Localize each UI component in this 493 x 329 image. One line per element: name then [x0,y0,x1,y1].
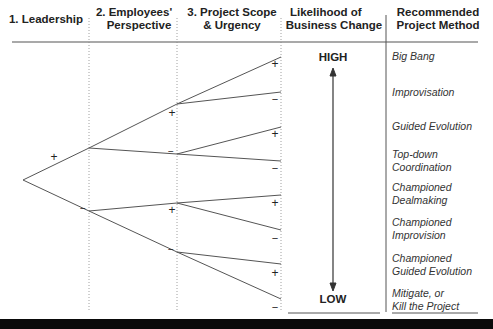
sign-scope-7: + [265,266,285,280]
method-line2: Dealmaking [392,194,452,207]
sign-scope-2: − [265,93,285,105]
sign-employees-minus-1: − [161,146,181,157]
sign-scope-8: − [265,301,285,313]
method-line1: Top-down [392,148,452,161]
method-championed-guided-evolution: Championed Guided Evolution [392,252,472,277]
sign-scope-1: + [265,57,285,71]
sign-employees-minus-2: − [161,244,181,255]
method-line2: Coordination [392,161,452,174]
sign-scope-4: − [265,162,285,174]
method-line2: Kill the Project [392,300,459,313]
method-top-down-coordination: Top-down Coordination [392,148,452,173]
sign-leadership-minus: − [73,203,93,214]
method-championed-improvision: Championed Improvision [392,216,452,241]
sign-employees-plus-2: + [162,203,182,217]
method-line1: Mitigate, or [392,287,459,300]
method-line1: Championed [392,181,452,194]
method-guided-evolution: Guided Evolution [392,120,472,133]
method-improvisation: Improvisation [392,86,454,99]
sign-scope-3: + [265,127,285,141]
likelihood-low-label: LOW [293,293,373,305]
bottom-bar [0,319,493,329]
method-line1: Guided Evolution [392,120,472,133]
sign-leadership-plus: + [44,150,64,164]
tree-branches [23,57,281,299]
method-line2: Improvision [392,229,452,242]
method-line1: Improvisation [392,86,454,99]
method-line1: Championed [392,252,472,265]
method-line1: Championed [392,216,452,229]
method-mitigate-or-kill: Mitigate, or Kill the Project [392,287,459,312]
sign-scope-6: − [265,232,285,244]
method-championed-dealmaking: Championed Dealmaking [392,181,452,206]
sign-employees-plus-1: + [162,106,182,120]
likelihood-high-label: HIGH [293,51,373,63]
method-line1: Big Bang [392,50,435,63]
likelihood-arrow [330,68,336,291]
method-big-bang: Big Bang [392,50,435,63]
method-line2: Guided Evolution [392,265,472,278]
sign-scope-5: + [265,196,285,210]
